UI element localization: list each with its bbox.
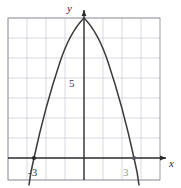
y-axis-label: y [67, 3, 72, 14]
x-tick-label-positive-three: 3 [123, 167, 129, 178]
y-axis-arrowhead [82, 10, 87, 16]
x-intercept-marker-right [132, 156, 136, 160]
x-tick-label-negative-three: -3 [28, 167, 37, 178]
x-axis-label: x [169, 158, 174, 169]
x-intercept-marker-left [32, 156, 36, 160]
graph-canvas [0, 0, 181, 188]
parabola-graph-figure: y x 5 -3 3 [0, 0, 181, 188]
x-axis-arrowhead [160, 156, 166, 161]
grid-vertical-lines [8, 18, 141, 180]
y-tick-label-5: 5 [69, 78, 75, 89]
